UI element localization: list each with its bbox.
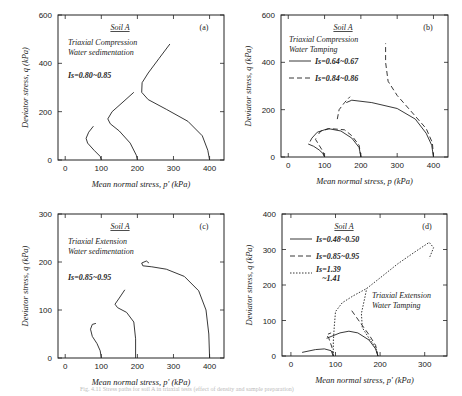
- y-tick-label: 0: [48, 156, 53, 165]
- stress-path-line: [108, 92, 138, 160]
- x-tick-label: 100: [318, 161, 332, 170]
- x-axis-title: Mean normal stress, p (kPa): [315, 176, 413, 186]
- stress-path-line: [351, 310, 378, 356]
- legend-label: Is=0.85~0.95: [315, 252, 359, 261]
- stress-path-line: [91, 323, 102, 358]
- y-tick-label: 300: [39, 210, 53, 219]
- x-tick-label: 400: [203, 164, 217, 173]
- y-tick-label: 400: [263, 210, 277, 219]
- x-tick-label: 200: [354, 161, 368, 170]
- y-tick-label: 400: [262, 58, 276, 67]
- y-tick-label: 200: [39, 258, 53, 267]
- test-type-label: Triaxial Extension: [372, 291, 431, 300]
- y-tick-label: 0: [271, 153, 276, 162]
- soil-label: Soil A: [110, 222, 129, 231]
- y-tick-label: 200: [39, 108, 53, 117]
- stress-path-line: [327, 331, 378, 356]
- plot-frame: [282, 214, 447, 356]
- plot-frame: [58, 15, 224, 160]
- soil-label: Soil A: [110, 23, 129, 32]
- plot-frame: [58, 214, 224, 358]
- x-tick-label: 0: [63, 164, 68, 173]
- preparation-label: Water Tamping: [372, 301, 421, 310]
- x-tick-label: 0: [63, 362, 68, 371]
- stress-path-line: [386, 43, 434, 157]
- y-tick-label: 600: [39, 11, 53, 20]
- chart-panel-d: 01002003000100200300400Mean normal stres…: [231, 198, 462, 396]
- x-tick-label: 400: [427, 161, 441, 170]
- stress-path-line: [86, 126, 101, 160]
- x-tick-label: 200: [131, 164, 145, 173]
- preparation-label: Water sedimentation: [68, 48, 134, 57]
- x-tick-label: 300: [167, 164, 181, 173]
- y-tick-label: 600: [262, 11, 276, 20]
- test-type-label: Triaxial Compression: [68, 38, 137, 47]
- y-axis-title: Deviator stress, q (kPa): [243, 45, 253, 127]
- legend-label-cont: ~1.41: [322, 274, 341, 283]
- x-tick-label: 100: [95, 164, 109, 173]
- legend-label: Is=0.64~0.67: [314, 57, 359, 66]
- x-tick-label: 100: [329, 360, 343, 369]
- panel-label: (c): [200, 222, 209, 231]
- stress-path-line: [316, 136, 325, 157]
- chart-panel-a: 01002003004000200400600Mean normal stres…: [0, 0, 231, 198]
- stress-path-line: [142, 44, 210, 160]
- y-tick-label: 100: [263, 317, 277, 326]
- legend-label: Is=0.84~0.86: [314, 74, 358, 83]
- y-tick-label: 200: [262, 106, 276, 115]
- stress-path-line: [310, 129, 361, 157]
- y-axis-title: Deviator stress, q (kPa): [20, 47, 30, 129]
- x-axis-title: Mean normal stress, p' (kPa): [91, 179, 191, 189]
- x-tick-label: 0: [289, 360, 294, 369]
- y-tick-label: 0: [48, 354, 53, 363]
- figure-caption: Fig. 4.11 Stress paths for soil A in tri…: [80, 386, 294, 392]
- density-index-label: Is=0.80~0.85: [67, 71, 111, 80]
- x-axis-title: Mean normal stress, p' (kPa): [314, 375, 414, 385]
- y-axis-title: Deviator stress, q (kPa): [244, 244, 254, 326]
- stress-path-line: [142, 261, 210, 358]
- x-tick-label: 400: [203, 362, 217, 371]
- stress-path-line: [302, 349, 333, 356]
- test-type-label: Triaxial Compression: [289, 35, 358, 44]
- soil-label: Soil A: [334, 222, 353, 231]
- preparation-label: Water sedimentation: [68, 247, 134, 256]
- x-tick-label: 300: [418, 360, 432, 369]
- x-tick-label: 300: [167, 362, 181, 371]
- x-tick-label: 200: [373, 360, 387, 369]
- stress-path-line: [317, 129, 361, 157]
- x-tick-label: 200: [131, 362, 145, 371]
- y-tick-label: 0: [272, 352, 277, 361]
- x-tick-label: 300: [390, 161, 404, 170]
- legend-label: Is=0.48~0.50: [315, 235, 359, 244]
- x-tick-label: 0: [286, 161, 291, 170]
- x-tick-label: 100: [95, 362, 109, 371]
- y-axis-title: Deviator stress, q (kPa): [20, 245, 30, 327]
- y-tick-label: 200: [263, 281, 277, 290]
- preparation-label: Water Tamping: [289, 45, 338, 54]
- chart-panel-c: 01002003004000100200300Mean normal stres…: [0, 198, 231, 396]
- y-tick-label: 400: [39, 59, 53, 68]
- legend-label: Is=1.39: [315, 265, 341, 274]
- y-tick-label: 300: [263, 246, 277, 255]
- stress-path-line: [308, 144, 324, 157]
- soil-label: Soil A: [333, 23, 352, 32]
- panel-label: (b): [423, 23, 433, 32]
- density-index-label: Is=0.85~0.95: [67, 273, 111, 282]
- stress-path-line: [115, 290, 136, 358]
- test-type-label: Triaxial Extension: [68, 237, 127, 246]
- panel-label: (d): [422, 222, 432, 231]
- chart-panel-b: 01002003004000200400600Mean normal stres…: [231, 0, 462, 198]
- y-tick-label: 100: [39, 306, 53, 315]
- panel-label: (a): [200, 23, 209, 32]
- stress-path-line: [337, 97, 350, 119]
